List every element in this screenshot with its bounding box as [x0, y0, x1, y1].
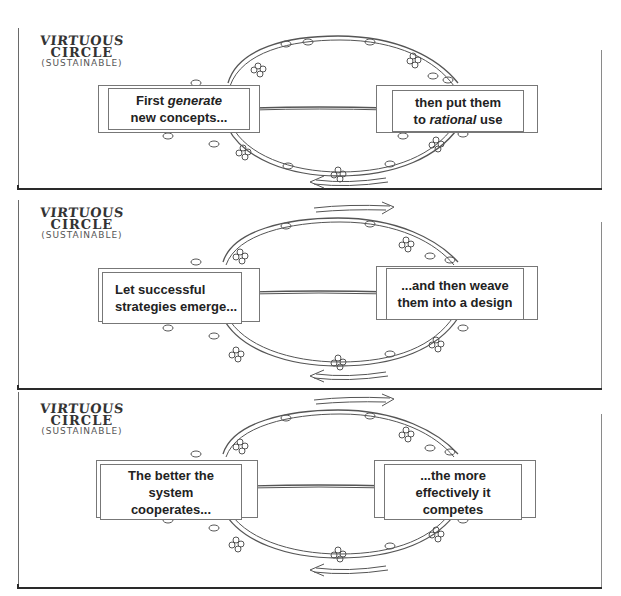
left-sign-line-1: The better the	[101, 467, 241, 484]
grape-cluster-icon	[229, 347, 244, 362]
left-sign: Let successful strategies emerge...	[102, 272, 242, 324]
bottom-arrow-left-icon	[314, 376, 388, 380]
panel-1: VIRTUOUS CIRCLE (SUSTAINABLE)	[18, 28, 602, 190]
grape-cluster-icon	[233, 249, 248, 264]
right-sign-line-1: then put them	[393, 94, 523, 111]
grape-cluster-icon	[251, 63, 266, 77]
left-sign: First generate new concepts...	[108, 88, 250, 130]
left-sign-line-2: new concepts...	[109, 109, 249, 126]
left-sign-line-1: First generate	[109, 92, 249, 109]
right-sign-line-2: to rational use	[393, 111, 523, 128]
connecting-rope	[248, 291, 392, 292]
right-sign-line-3: competes	[385, 501, 521, 518]
grape-cluster-icon	[407, 53, 421, 68]
grape-cluster-icon	[399, 427, 414, 442]
right-sign-line-1: ...and then weave	[387, 277, 523, 294]
grape-cluster-icon	[229, 537, 244, 552]
bottom-arrow-left-icon	[314, 182, 388, 186]
grape-cluster-icon	[429, 527, 444, 542]
left-sign-line-2: strategies emerge...	[115, 298, 241, 315]
left-sign-line-2: system	[101, 484, 241, 501]
left-sign-line-3: cooperates...	[101, 501, 241, 518]
bottom-arrow-left-icon	[314, 570, 388, 574]
left-sign-line-1: Let successful	[115, 281, 241, 298]
left-sign: The better the system cooperates...	[100, 464, 242, 520]
top-arrow-right-icon	[314, 397, 390, 400]
right-sign-line-2: them into a design	[387, 294, 523, 311]
grape-cluster-icon	[399, 237, 414, 252]
connecting-rope	[248, 485, 392, 486]
right-sign: ...and then weave them into a design	[386, 268, 524, 320]
grape-cluster-icon	[331, 355, 346, 370]
panel-2: VIRTUOUS CIRCLE (SUSTAINABLE)	[18, 200, 602, 390]
grape-cluster-icon	[233, 439, 248, 454]
right-sign: then put them to rational use	[392, 90, 524, 132]
top-arrow-right-icon	[314, 205, 390, 208]
right-sign-line-2: effectively it	[385, 484, 521, 501]
right-sign: ...the more effectively it competes	[384, 464, 522, 520]
panel-3: VIRTUOUS CIRCLE (SUSTAINABLE)	[18, 392, 602, 589]
grape-cluster-icon	[331, 167, 346, 182]
right-sign-line-1: ...the more	[385, 467, 521, 484]
connecting-rope	[253, 107, 388, 108]
grape-cluster-icon	[331, 547, 346, 562]
